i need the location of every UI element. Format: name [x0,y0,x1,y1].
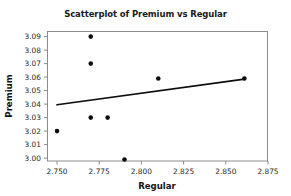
x-tick-label: 2.750 [46,167,67,176]
x-tick-label: 2.825 [173,167,194,176]
y-tick-label: 3.08 [25,46,42,55]
y-tick-label: 3.02 [25,127,41,136]
y-tick-label: 3.04 [25,100,42,109]
y-axis-ticks [44,37,48,159]
plot-frame [48,32,268,162]
y-tick-label: 3.06 [25,73,42,82]
x-axis-tick-labels: 2.750 2.775 2.800 2.825 2.850 2.875 [46,167,278,176]
y-tick-label: 3.09 [25,32,42,41]
data-point [156,76,161,81]
plot-canvas: 2.750 2.775 2.800 2.825 2.850 2.875 Regu… [0,0,291,196]
data-point [55,129,60,134]
x-axis-title: Regular [138,181,176,191]
data-point [122,157,127,162]
data-point [242,76,247,81]
y-tick-label: 3.03 [25,113,42,122]
x-axis-ticks [57,161,268,165]
data-point [88,61,93,66]
y-tick-label: 3.05 [25,86,42,95]
x-tick-label: 2.850 [215,167,236,176]
y-axis-title: Premium [4,74,14,117]
y-axis-tick-labels: 3.00 3.01 3.02 3.03 3.04 3.05 3.06 3.07 … [25,32,42,163]
x-tick-label: 2.800 [131,167,152,176]
data-points-group [55,34,247,161]
x-tick-label: 2.775 [89,167,110,176]
data-point [88,34,93,39]
trend-line [57,79,244,105]
scatterplot-figure: Scatterplot of Premium vs Regular 2.750 … [0,0,291,196]
y-tick-label: 3.07 [25,59,42,68]
x-tick-label: 2.875 [257,167,278,176]
data-point [88,115,93,120]
data-point [105,115,110,120]
y-tick-label: 3.01 [25,140,42,149]
y-tick-label: 3.00 [25,154,42,163]
